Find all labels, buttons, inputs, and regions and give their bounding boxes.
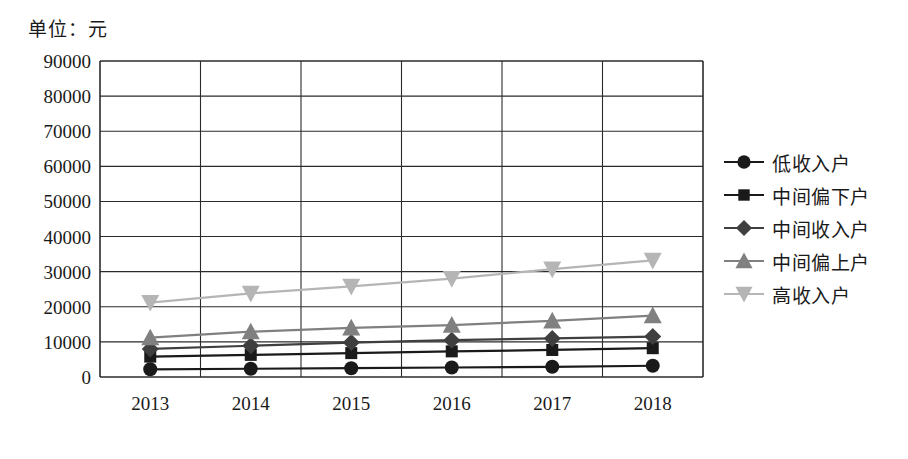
y-axis-tick-label: 40000 — [44, 227, 92, 248]
gridlines — [100, 61, 703, 377]
y-axis-tick-label: 10000 — [44, 332, 92, 353]
y-axis-tick-label: 50000 — [44, 191, 92, 212]
data-point-marker-triangle-down — [141, 295, 159, 312]
legend-label: 低收入户 — [772, 149, 850, 176]
data-point-marker-circle — [545, 360, 559, 374]
y-axis-tick-label: 60000 — [44, 156, 92, 177]
legend-swatch-circle — [722, 152, 766, 172]
x-axis-tick-label: 2018 — [634, 393, 672, 414]
y-axis-tick-label: 70000 — [44, 121, 92, 142]
legend-item-1[interactable]: 低收入户 — [722, 150, 870, 174]
legend-swatch-square — [722, 185, 766, 205]
legend-item-4[interactable]: 中间偏上户 — [722, 249, 870, 273]
data-point-marker-circle — [646, 359, 660, 373]
x-axis-tick-label: 2013 — [131, 393, 169, 414]
y-axis-tick-label: 90000 — [44, 51, 92, 72]
legend-label: 高收入户 — [772, 281, 850, 308]
legend-swatch-triangle-up — [722, 251, 766, 271]
y-axis-tick-label: 0 — [82, 367, 92, 388]
data-point-marker-diamond — [736, 220, 752, 236]
legend-label: 中间收入户 — [772, 215, 870, 242]
chart-figure: 单位：元 90000800007000060000500004000030000… — [0, 0, 908, 459]
legend-label: 中间偏下户 — [772, 182, 870, 209]
y-axis-tick-label: 20000 — [44, 297, 92, 318]
x-axis-tick-labels: 201320142015201620172018 — [131, 393, 672, 414]
y-axis-tick-label: 30000 — [44, 262, 92, 283]
x-axis-tick-label: 2016 — [433, 393, 471, 414]
legend-swatch-diamond — [722, 218, 766, 238]
data-point-marker-circle — [445, 361, 459, 375]
data-point-marker-circle — [143, 362, 157, 376]
data-point-marker-circle — [737, 155, 750, 168]
data-point-marker-square — [738, 189, 749, 200]
legend-item-2[interactable]: 中间偏下户 — [722, 183, 870, 207]
legend-item-3[interactable]: 中间收入户 — [722, 216, 870, 240]
x-axis-tick-label: 2015 — [332, 393, 370, 414]
legend-item-5[interactable]: 高收入户 — [722, 282, 870, 306]
data-point-marker-circle — [244, 362, 258, 376]
y-axis-tick-labels: 9000080000700006000050000400003000020000… — [44, 51, 92, 388]
data-point-marker-circle — [344, 361, 358, 375]
legend-label: 中间偏上户 — [772, 248, 870, 275]
chart-legend: 低收入户中间偏下户中间收入户中间偏上户高收入户 — [722, 150, 870, 306]
x-axis-tick-label: 2014 — [232, 393, 271, 414]
y-axis-tick-label: 80000 — [44, 86, 92, 107]
legend-swatch-triangle-down — [722, 284, 766, 304]
x-axis-tick-label: 2017 — [533, 393, 571, 414]
